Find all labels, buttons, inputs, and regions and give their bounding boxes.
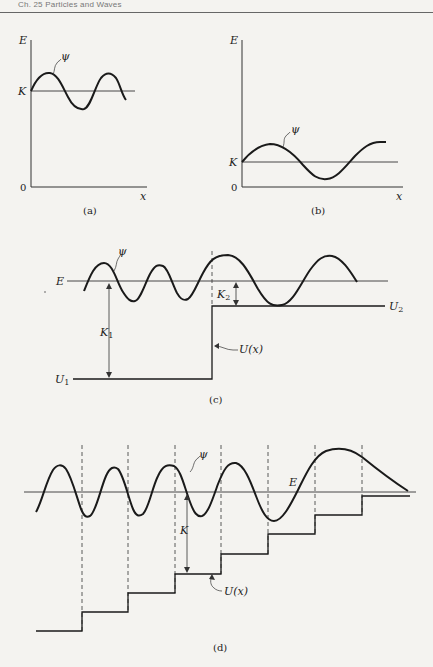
wavefunction-curve [242, 142, 386, 179]
panel-a: E x 0 K ψ (a) [17, 34, 147, 216]
caption-b: (b) [311, 205, 325, 216]
caption-c: (c) [209, 394, 223, 405]
origin-label: 0 [20, 182, 26, 193]
k-label: K [179, 524, 189, 537]
y-axis-label: E [18, 34, 27, 47]
staircase-potential [36, 496, 410, 631]
energy-label: E [288, 476, 297, 489]
psi-label: ψ [199, 448, 208, 461]
psi-label: ψ [61, 50, 70, 63]
ux-label: U(x) [239, 343, 263, 356]
caption-d: (d) [213, 642, 227, 653]
caption-a: (a) [83, 205, 97, 216]
y-axis-label: E [229, 34, 238, 47]
k-label: K [17, 85, 27, 98]
k2-label: K2 [216, 288, 230, 302]
figure-canvas: E x 0 K ψ (a) E x 0 K ψ (b) E U1 U2 [0, 0, 433, 667]
u1-label: U1 [55, 373, 69, 387]
scan-speck [44, 291, 46, 293]
ux-label: U(x) [224, 585, 248, 598]
panel-d: E ψ K U(x) (d) [24, 445, 416, 653]
ux-pointer-head [214, 343, 219, 349]
panel-c: E U1 U2 ψ K1 K2 U(x) (c) [55, 245, 403, 405]
psi-label: ψ [118, 245, 127, 258]
x-axis-label: x [140, 190, 147, 203]
panel-b: E x 0 K ψ (b) [228, 34, 403, 216]
k1-label: K1 [99, 326, 113, 340]
energy-label: E [55, 275, 64, 288]
k-label: K [228, 156, 238, 169]
potential-step [73, 306, 385, 379]
ux-pointer-head [209, 574, 215, 580]
psi-pointer [53, 59, 61, 75]
wavefunction-curve [36, 449, 408, 521]
x-axis-label: x [396, 190, 403, 203]
origin-label: 0 [231, 182, 237, 193]
u2-label: U2 [389, 300, 403, 314]
psi-pointer [283, 132, 290, 147]
psi-label: ψ [291, 123, 300, 136]
